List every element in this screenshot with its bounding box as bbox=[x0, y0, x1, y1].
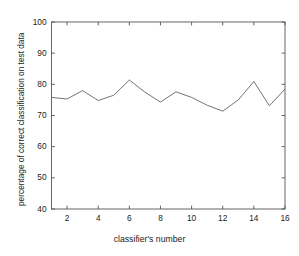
x-tick-label: 6 bbox=[118, 213, 140, 223]
y-axis-title: percentage of correct classification on … bbox=[16, 16, 26, 206]
x-tick-label: 10 bbox=[181, 213, 203, 223]
series-line-accuracy bbox=[52, 80, 286, 111]
x-tick-label: 12 bbox=[212, 213, 234, 223]
figure-canvas: 405060708090100 246810121416 percentage … bbox=[0, 0, 299, 256]
x-tick-label: 16 bbox=[274, 213, 296, 223]
x-tick-label: 8 bbox=[149, 213, 171, 223]
x-axis-ticks bbox=[67, 22, 285, 209]
x-axis-title: classifier's number bbox=[0, 234, 299, 244]
y-axis-ticks bbox=[52, 22, 286, 209]
x-tick-label: 4 bbox=[87, 213, 109, 223]
axes-frame bbox=[52, 22, 286, 209]
x-tick-label: 14 bbox=[243, 213, 265, 223]
axes-border bbox=[52, 22, 286, 209]
data-series-line bbox=[52, 80, 286, 111]
x-tick-label: 2 bbox=[56, 213, 78, 223]
